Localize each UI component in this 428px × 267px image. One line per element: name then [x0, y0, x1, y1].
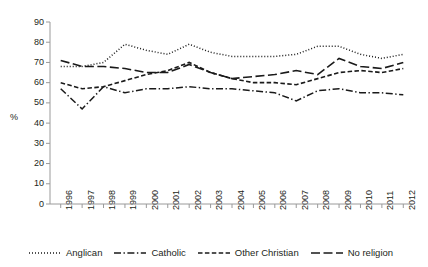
- data-series-group: [61, 44, 404, 109]
- legend-swatch-long-dash-icon: [310, 248, 344, 258]
- legend-item-catholic[interactable]: Catholic: [113, 248, 185, 258]
- legend-swatch-dotted-icon: [28, 248, 62, 258]
- legend-item-no-religion[interactable]: No religion: [310, 248, 393, 258]
- series-line-catholic: [61, 87, 404, 109]
- legend-label: Other Christian: [235, 248, 299, 258]
- x-tick-marks: [61, 204, 404, 208]
- legend-item-anglican[interactable]: Anglican: [28, 248, 102, 258]
- legend-swatch-short-dash-icon: [197, 248, 231, 258]
- chart-legend: AnglicanCatholicOther ChristianNo religi…: [28, 245, 420, 261]
- series-line-no-religion: [61, 58, 404, 78]
- legend-label: No religion: [348, 248, 393, 258]
- legend-item-other-christian[interactable]: Other Christian: [197, 248, 299, 258]
- chart-container: % 9080706050403020100 199619971998199920…: [0, 0, 428, 267]
- legend-swatch-dash-dot-icon: [113, 248, 147, 258]
- legend-label: Catholic: [151, 248, 185, 258]
- legend-label: Anglican: [66, 248, 102, 258]
- plot-area: [0, 0, 428, 267]
- axes: [46, 22, 414, 208]
- series-line-other-christian: [61, 62, 404, 88]
- y-tick-marks: [46, 22, 50, 204]
